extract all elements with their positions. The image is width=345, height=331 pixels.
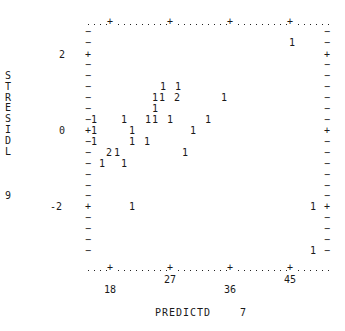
data-point: 1	[91, 126, 97, 136]
y-axis-label-letter: R	[5, 93, 11, 103]
data-point: 1	[152, 93, 158, 103]
data-point: 1	[129, 202, 135, 212]
data-point: 1	[175, 82, 181, 92]
axis-dot	[328, 24, 329, 25]
axis-dot	[274, 24, 275, 25]
axis-dot	[190, 24, 191, 25]
axis-dot	[130, 270, 131, 271]
scatter-plot: ++++++++−−−−++−−−−−−−−−−−−++−−−−−−−−−−−−…	[0, 0, 345, 331]
axis-dot	[124, 270, 125, 271]
axis-dot	[142, 270, 143, 271]
data-point: 1	[145, 115, 151, 125]
axis-dot	[148, 270, 149, 271]
axis-dot	[238, 24, 239, 25]
y-axis-minor-tick: −	[85, 38, 91, 48]
axis-dot	[220, 24, 221, 25]
data-point: 1	[221, 93, 227, 103]
axis-dot	[304, 270, 305, 271]
axis-dot	[238, 270, 239, 271]
right-border-minor-tick: −	[324, 213, 330, 223]
right-border-minor-tick: −	[324, 246, 330, 256]
right-border-minor-tick: −	[324, 235, 330, 245]
right-border-minor-tick: −	[324, 224, 330, 234]
y-axis-minor-tick: −	[85, 27, 91, 37]
axis-dot	[124, 24, 125, 25]
top-border-tick: +	[287, 17, 293, 27]
data-point: 1	[129, 137, 135, 147]
right-border-minor-tick: −	[324, 71, 330, 81]
right-border-minor-tick: −	[324, 159, 330, 169]
axis-dot	[154, 270, 155, 271]
data-point: 1	[159, 93, 165, 103]
data-point: 1	[190, 126, 196, 136]
y-axis-minor-tick: −	[85, 93, 91, 103]
data-point: 1	[114, 148, 120, 158]
y-axis-major-tick: +	[85, 202, 91, 212]
axis-dot	[160, 24, 161, 25]
x-axis-label-suffix: 7	[240, 308, 246, 318]
axis-dot	[88, 24, 89, 25]
y-axis-minor-tick: −	[85, 148, 91, 158]
data-point: 1	[205, 115, 211, 125]
data-point: 1	[152, 104, 158, 114]
axis-dot	[88, 270, 89, 271]
y-axis-label-suffix: 9	[5, 191, 11, 201]
axis-dot	[220, 270, 221, 271]
axis-dot	[118, 24, 119, 25]
right-border-minor-tick: −	[324, 148, 330, 158]
axis-dot	[136, 270, 137, 271]
axis-dot	[160, 270, 161, 271]
y-axis-minor-tick: −	[85, 82, 91, 92]
y-axis-minor-tick: −	[85, 170, 91, 180]
axis-dot	[268, 24, 269, 25]
y-axis-label-letter: S	[5, 71, 11, 81]
data-point: 1	[289, 38, 295, 48]
axis-dot	[148, 24, 149, 25]
axis-dot	[250, 270, 251, 271]
axis-dot	[100, 270, 101, 271]
axis-dot	[268, 270, 269, 271]
axis-dot	[208, 24, 209, 25]
axis-dot	[184, 24, 185, 25]
axis-dot	[322, 24, 323, 25]
data-point: 1	[182, 148, 188, 158]
y-axis-label-letter: S	[5, 114, 11, 124]
axis-dot	[94, 24, 95, 25]
axis-dot	[196, 270, 197, 271]
axis-dot	[118, 270, 119, 271]
data-point: 1	[160, 82, 166, 92]
axis-dot	[244, 24, 245, 25]
axis-dot	[316, 24, 317, 25]
axis-dot	[142, 24, 143, 25]
axis-dot	[154, 24, 155, 25]
right-border-major-tick: +	[324, 126, 330, 136]
axis-dot	[310, 270, 311, 271]
y-axis-minor-tick: −	[85, 60, 91, 70]
axis-dot	[136, 24, 137, 25]
y-axis-label-letter: L	[5, 147, 11, 157]
x-tick-label: 18	[104, 285, 116, 295]
axis-dot	[274, 270, 275, 271]
axis-dot	[94, 270, 95, 271]
data-point: 1	[129, 126, 135, 136]
axis-dot	[262, 24, 263, 25]
axis-dot	[184, 270, 185, 271]
axis-dot	[244, 270, 245, 271]
y-axis-label-letter: D	[5, 136, 11, 146]
data-point: 1	[310, 202, 316, 212]
right-border-major-tick: +	[324, 202, 330, 212]
right-border-minor-tick: −	[324, 104, 330, 114]
axis-dot	[298, 24, 299, 25]
right-border-minor-tick: −	[324, 82, 330, 92]
axis-dot	[280, 270, 281, 271]
x-tick-label: 36	[224, 285, 236, 295]
axis-dot	[310, 24, 311, 25]
data-point: 1	[144, 137, 150, 147]
axis-dot	[196, 24, 197, 25]
y-axis-minor-tick: −	[85, 71, 91, 81]
axis-dot	[256, 24, 257, 25]
data-point: 1	[99, 159, 105, 169]
data-point: 1	[91, 115, 97, 125]
y-tick-label: -2	[50, 202, 62, 212]
x-axis-tick: +	[107, 263, 113, 273]
